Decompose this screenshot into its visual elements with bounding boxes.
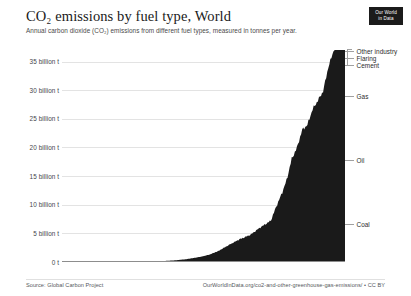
- y-axis-tick-label: 15 billion t: [30, 173, 59, 180]
- legend-connector-line: [345, 160, 354, 161]
- y-axis-tick-label: 20 billion t: [30, 144, 59, 151]
- legend-item-label: Gas: [357, 93, 369, 100]
- chart-header: CO₂ emissions by fuel type, World Annual…: [26, 8, 356, 35]
- legend-connector-line: [345, 224, 354, 225]
- y-axis-tick-label: 0 t: [52, 259, 59, 266]
- y-axis-tick-label: 35 billion t: [30, 58, 59, 65]
- legend-connector-line: [345, 65, 354, 66]
- y-axis-tick-label: 30 billion t: [30, 87, 59, 94]
- legend-item-oil[interactable]: Oil: [345, 156, 364, 164]
- our-world-in-data-logo: Our World in Data: [369, 7, 403, 25]
- page-title: CO₂ emissions by fuel type, World: [26, 8, 356, 24]
- chart-legend: Other industryFlaringCementGasOilCoal: [345, 44, 411, 266]
- legend-item-coal[interactable]: Coal: [345, 220, 370, 228]
- footer-link[interactable]: OurWorldInData.org/co2-and-other-greenho…: [203, 282, 385, 288]
- legend-connector-line: [345, 58, 354, 59]
- legend-item-label: Coal: [357, 221, 370, 228]
- y-axis-tick-label: 5 billion t: [33, 230, 59, 237]
- logo-line-2: in Data: [369, 16, 403, 22]
- legend-connector-line: [345, 96, 354, 97]
- stacked-area-series: [62, 50, 345, 262]
- legend-item-gas[interactable]: Gas: [345, 92, 368, 100]
- chart-card: CO₂ emissions by fuel type, World Annual…: [0, 0, 411, 296]
- y-axis-tick-label: 10 billion t: [30, 201, 59, 208]
- legend-connector-line: [345, 51, 354, 52]
- plot-area: [62, 50, 345, 262]
- legend-item-label: Cement: [357, 62, 380, 69]
- source-label: Source: Global Carbon Project: [26, 282, 103, 288]
- x-axis-baseline: [62, 261, 345, 262]
- footer-divider: [26, 279, 385, 280]
- y-axis-tick-label: 25 billion t: [30, 115, 59, 122]
- chart-subtitle: Annual carbon dioxide (CO₂) emissions fr…: [26, 26, 356, 35]
- legend-item-label: Oil: [357, 157, 365, 164]
- area-path-total: [62, 50, 345, 262]
- chart-footer: Source: Global Carbon Project OurWorldIn…: [0, 279, 411, 291]
- legend-item-cement[interactable]: Cement: [345, 61, 379, 69]
